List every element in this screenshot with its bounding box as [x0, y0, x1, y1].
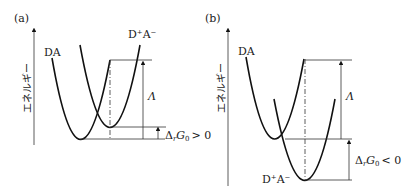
panel-a-label: (a)	[14, 12, 29, 25]
lambda-label: Λ	[345, 90, 354, 103]
panel-b-label: (b)	[205, 12, 221, 25]
delta-g-label: ΔrG0< 0	[355, 154, 401, 168]
delta-g-label: ΔrG0> 0	[165, 129, 211, 143]
reactant-curve	[246, 57, 304, 139]
reactant-label: DA	[238, 45, 256, 58]
lambda-label: Λ	[147, 90, 156, 103]
product-label: D⁺A⁻	[128, 28, 157, 41]
panel-a: (a) エネルギー DA D⁺A⁻ Λ ΔrG0> 0	[14, 12, 211, 145]
product-label: D⁺A⁻	[262, 173, 291, 186]
product-curve	[80, 45, 140, 128]
reactant-curve	[52, 58, 110, 140]
y-axis-label: エネルギー	[216, 63, 227, 113]
panel-b: (b) エネルギー DA D⁺A⁻ Λ ΔrG0< 0	[205, 12, 401, 186]
y-axis-label: エネルギー	[22, 63, 33, 113]
marcus-diagram: (a) エネルギー DA D⁺A⁻ Λ ΔrG0> 0 (b) エネルギー DA	[0, 0, 410, 195]
product-curve	[274, 99, 335, 181]
reactant-label: DA	[44, 46, 62, 59]
